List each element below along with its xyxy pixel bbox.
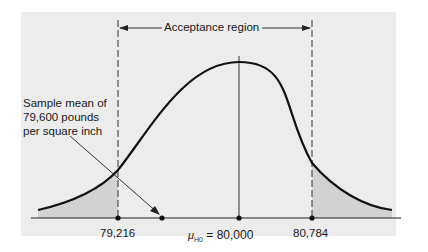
arrowhead-right-icon — [302, 25, 311, 31]
arrowhead-left-icon — [119, 25, 128, 31]
annotation-line-3: per square inch — [23, 124, 133, 138]
sample-mean-dot — [159, 215, 164, 220]
mu-subscript: H0 — [194, 236, 203, 243]
sample-mean-annotation: Sample mean of 79,600 pounds per square … — [23, 96, 133, 138]
lower-critical-dot — [115, 215, 120, 220]
acceptance-region-label: Acceptance region — [162, 21, 261, 33]
annotation-line-2: 79,600 pounds — [23, 110, 133, 124]
mean-dot — [236, 215, 241, 220]
mean-label: μH0 = 80,000 — [188, 228, 253, 243]
left-tail-shading — [38, 170, 118, 218]
right-tail-shading — [312, 163, 392, 218]
mean-value: = 80,000 — [206, 228, 253, 242]
upper-critical-label: 80,784 — [293, 228, 328, 240]
upper-critical-dot — [309, 215, 314, 220]
annotation-line-1: Sample mean of — [23, 96, 133, 110]
lower-critical-label: 79,216 — [100, 228, 135, 240]
